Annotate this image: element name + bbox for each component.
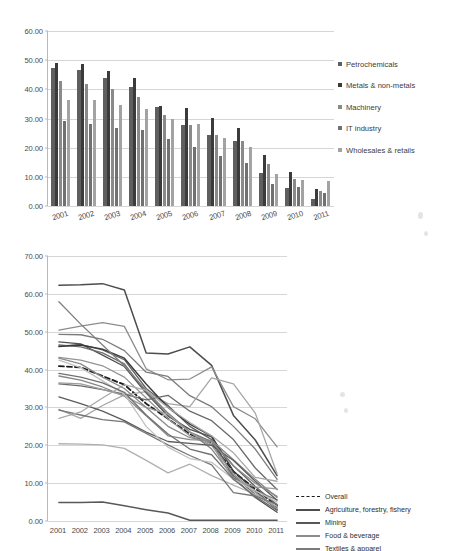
bar bbox=[267, 164, 270, 206]
bar bbox=[51, 68, 54, 206]
bar-plot-wrap: 0.0010.0020.0030.0040.0050.0060.00 20012… bbox=[47, 31, 334, 206]
legend-item[interactable]: Agriculture, forestry, fishery bbox=[296, 503, 452, 516]
scan-speck bbox=[424, 231, 428, 236]
bar bbox=[67, 100, 70, 206]
line-series: Construction bbox=[59, 384, 277, 490]
x-axis-tick-label: 2006 bbox=[177, 207, 205, 224]
x-axis-tick-label: 2002 bbox=[72, 207, 100, 224]
bar bbox=[271, 184, 274, 206]
bar bbox=[103, 78, 106, 206]
y-axis-tick-label: 10.00 bbox=[24, 172, 48, 181]
bar bbox=[193, 147, 196, 206]
legend-line-stroke bbox=[296, 535, 320, 536]
legend-label: Agriculture, forestry, fishery bbox=[325, 506, 411, 514]
legend-label: Machinery bbox=[346, 103, 381, 112]
line-chart: 0.0010.0020.0030.0040.0050.0060.0070.00 … bbox=[0, 240, 452, 551]
y-axis-tick-label: 30.00 bbox=[24, 114, 48, 123]
line-series-svg: OverallAgriculture, forestry, fisheryMin… bbox=[48, 256, 288, 521]
bar-group-2003 bbox=[100, 31, 126, 206]
y-axis-tick-label: 50.00 bbox=[24, 327, 48, 336]
bar-group-2004 bbox=[126, 31, 152, 206]
scan-speck bbox=[344, 408, 348, 413]
legend-label: Petrochemicals bbox=[346, 60, 398, 69]
bar bbox=[323, 193, 326, 206]
bar bbox=[81, 64, 84, 206]
legend-item[interactable]: Mining bbox=[296, 516, 452, 529]
bar-group-2005 bbox=[152, 31, 178, 206]
y-axis-tick-label: 60.00 bbox=[24, 27, 48, 36]
bar-group-2007 bbox=[204, 31, 230, 206]
legend-label: Food & beverage bbox=[325, 532, 379, 540]
bar bbox=[137, 97, 140, 206]
legend-line-icon bbox=[296, 545, 320, 551]
line-chart-legend: OverallAgriculture, forestry, fisheryMin… bbox=[296, 490, 452, 551]
bar-plot-area: 0.0010.0020.0030.0040.0050.0060.00 bbox=[47, 31, 334, 206]
x-axis-tick-label: 2005 bbox=[134, 526, 156, 535]
bar bbox=[301, 180, 304, 206]
bar bbox=[77, 70, 80, 207]
legend-line-icon bbox=[296, 493, 320, 501]
bar-group-2008 bbox=[230, 31, 256, 206]
bar-chart-legend: PetrochemicalsMetals & non-metalsMachine… bbox=[338, 60, 448, 167]
bar bbox=[189, 125, 192, 206]
bar bbox=[145, 109, 148, 206]
legend-item[interactable]: Food & beverage bbox=[296, 529, 452, 542]
bar bbox=[319, 191, 322, 206]
bar-chart: 0.0010.0020.0030.0040.0050.0060.00 20012… bbox=[0, 0, 452, 235]
legend-item[interactable]: IT industry bbox=[338, 124, 448, 133]
y-axis-tick-label: 60.00 bbox=[24, 289, 48, 298]
bar bbox=[133, 78, 136, 206]
legend-line-stroke bbox=[296, 548, 320, 549]
x-axis-tick-label: 2008 bbox=[200, 526, 222, 535]
bar bbox=[155, 107, 158, 206]
scan-speck bbox=[418, 212, 423, 219]
bar-group-2011 bbox=[308, 31, 334, 206]
bar bbox=[293, 179, 296, 206]
bar bbox=[223, 138, 226, 206]
x-axis-tick-label: 2004 bbox=[125, 207, 153, 224]
bar bbox=[181, 125, 184, 206]
y-axis-tick-label: 10.00 bbox=[24, 479, 48, 488]
x-axis-tick-label: 2001 bbox=[46, 207, 74, 224]
legend-item[interactable]: Textiles & apparel bbox=[296, 542, 452, 551]
bar bbox=[297, 187, 300, 206]
bar bbox=[167, 139, 170, 206]
legend-item[interactable]: Machinery bbox=[338, 103, 448, 112]
bar bbox=[207, 135, 210, 206]
bar-x-axis-labels: 2001200220032004200520062007200820092010… bbox=[47, 206, 334, 220]
y-axis-tick-label: 70.00 bbox=[24, 252, 48, 261]
line-series: Mining bbox=[59, 502, 277, 520]
bar bbox=[259, 173, 262, 206]
bar bbox=[241, 141, 244, 206]
legend-swatch-icon bbox=[338, 62, 342, 66]
legend-item[interactable]: Metals & non-metals bbox=[338, 81, 448, 90]
bar bbox=[59, 81, 62, 206]
legend-item[interactable]: Wholesales & retails bbox=[338, 146, 448, 155]
bar-group-2006 bbox=[178, 31, 204, 206]
bar bbox=[107, 71, 110, 206]
bar-groups bbox=[48, 31, 334, 206]
y-axis-tick-label: 30.00 bbox=[24, 403, 48, 412]
x-axis-tick-label: 2010 bbox=[281, 207, 309, 224]
legend-line-icon bbox=[296, 519, 320, 527]
bar bbox=[315, 189, 318, 207]
x-axis-tick-label: 2006 bbox=[156, 526, 178, 535]
bar bbox=[245, 163, 248, 206]
bar bbox=[115, 128, 118, 206]
legend-item[interactable]: Petrochemicals bbox=[338, 60, 448, 69]
legend-line-icon bbox=[296, 506, 320, 514]
bar bbox=[263, 155, 266, 206]
x-axis-tick-label: 2003 bbox=[98, 207, 126, 224]
y-axis-tick-label: 50.00 bbox=[24, 56, 48, 65]
legend-swatch-icon bbox=[338, 148, 342, 152]
legend-label: Overall bbox=[325, 493, 347, 501]
y-axis-tick-label: 20.00 bbox=[24, 143, 48, 152]
bar bbox=[219, 156, 222, 206]
legend-item[interactable]: Overall bbox=[296, 490, 452, 503]
bar-group-2010 bbox=[282, 31, 308, 206]
bar bbox=[93, 100, 96, 206]
legend-swatch-icon bbox=[338, 105, 342, 109]
bar-group-2001 bbox=[48, 31, 74, 206]
y-axis-tick-label: 20.00 bbox=[24, 441, 48, 450]
x-axis-tick-label: 2003 bbox=[91, 526, 113, 535]
